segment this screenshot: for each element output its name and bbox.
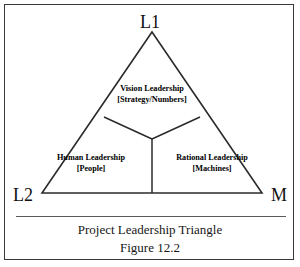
figure-frame: L1 L2 M Vision Leadership [Strategy/Numb… xyxy=(4,4,294,260)
zone-vision-subtitle: [Strategy/Numbers] xyxy=(67,95,237,106)
zone-rational-title: Rational Leadership xyxy=(176,153,248,162)
triangle-graphic xyxy=(5,5,295,213)
triangle-diagram: L1 L2 M Vision Leadership [Strategy/Numb… xyxy=(5,5,295,213)
zone-rational-subtitle: [Machines] xyxy=(149,164,275,175)
vertex-label-bottom-left: L2 xyxy=(13,186,33,204)
figure-caption: Project Leadership Triangle Figure 12.2 xyxy=(5,221,295,257)
zone-human-leadership: Human Leadership [People] xyxy=(31,153,151,175)
vertex-label-top: L1 xyxy=(5,13,295,31)
zone-vision-title: Vision Leadership xyxy=(120,84,184,93)
zone-human-subtitle: [People] xyxy=(31,164,151,175)
zone-rational-leadership: Rational Leadership [Machines] xyxy=(149,153,275,175)
zone-human-title: Human Leadership xyxy=(57,153,125,162)
caption-title: Project Leadership Triangle xyxy=(5,221,295,239)
zone-vision-leadership: Vision Leadership [Strategy/Numbers] xyxy=(67,84,237,106)
caption-divider xyxy=(16,216,286,217)
vertex-label-bottom-right: M xyxy=(271,186,287,204)
divider-upper-right-line xyxy=(152,117,200,139)
caption-number: Figure 12.2 xyxy=(5,239,295,257)
divider-upper-left-line xyxy=(104,117,152,139)
